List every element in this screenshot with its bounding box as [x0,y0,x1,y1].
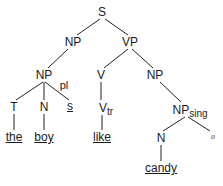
leaf-candy: candy [145,162,177,174]
node-np-sing: NPsing [172,104,207,116]
node-vtr: Vtr [99,102,113,114]
leaf-like: like [93,131,111,143]
feature-pl: pl [60,79,69,91]
node-null: ø [211,131,216,143]
node-v: V [97,69,105,81]
node-suffix-s: s [67,100,73,112]
node-n-object: N [157,132,166,144]
node-np-subject: NP [65,36,82,48]
node-t: T [10,101,17,113]
tree-edges [0,0,223,186]
node-np-object: NP [147,69,164,81]
node-n-subject: N [40,101,49,113]
node-s: S [98,6,106,18]
leaf-boy: boy [34,131,53,143]
leaf-the: the [6,131,23,143]
node-vp: VP [122,36,138,48]
node-np-inner: NP [36,69,53,81]
